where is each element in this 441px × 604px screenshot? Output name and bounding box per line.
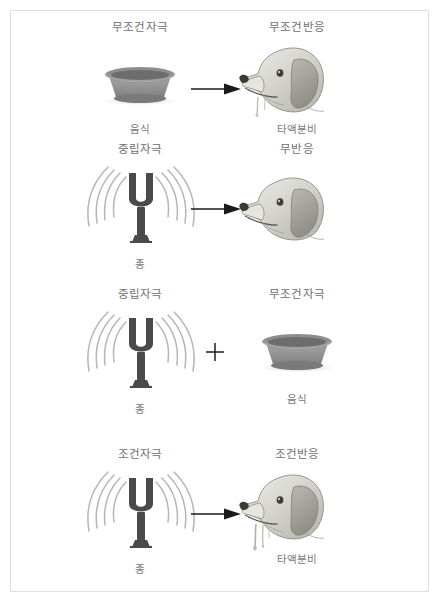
diagram-row-neutral: 중립자극 무반응 [0, 140, 441, 285]
plus-icon [205, 342, 225, 362]
row3-stimulus-caption: 종 [65, 401, 215, 416]
tuning-fork-icon [86, 308, 196, 400]
row2-response-header: 무반응 [222, 140, 372, 156]
row1-stimulus-caption: 음식 [65, 121, 215, 136]
diagram-row-conditioned: 조건자극 조건반응 [0, 445, 441, 590]
row2-stimulus-caption: 종 [65, 256, 215, 271]
tuning-fork-icon [86, 163, 196, 255]
bowl-interior [268, 337, 326, 347]
tuning-fork-icon [86, 468, 196, 560]
bowl-base [271, 361, 323, 370]
row2-stimulus-header: 중립자극 [65, 140, 215, 156]
row4-response-header: 조건반응 [222, 445, 372, 461]
dog-head-icon [232, 172, 328, 242]
row4-stimulus-header: 조건자극 [65, 445, 215, 461]
row3-second-caption: 음식 [222, 391, 372, 406]
row1-stimulus-header: 무조건자극 [65, 18, 215, 34]
row4-response-caption: 타액분비 [222, 551, 372, 566]
dog-bowl-icon [260, 333, 334, 373]
diagram-row-pairing: 중립자극 무조건자극 [0, 285, 441, 430]
dog-head-salivating-icon [232, 40, 328, 122]
row3-response-header: 무조건자극 [222, 285, 372, 301]
row3-stimulus-header: 중립자극 [65, 285, 215, 301]
row1-response-caption: 타액분비 [222, 121, 372, 136]
bowl-base [114, 94, 166, 103]
dog-bowl-icon [103, 66, 177, 106]
dog-head-salivating-icon [232, 467, 328, 553]
row1-response-header: 무조건반응 [222, 18, 372, 34]
row4-stimulus-caption: 종 [65, 561, 215, 576]
classical-conditioning-figure: 무조건자극 무조건반응 [0, 0, 441, 604]
bowl-interior [111, 70, 169, 80]
